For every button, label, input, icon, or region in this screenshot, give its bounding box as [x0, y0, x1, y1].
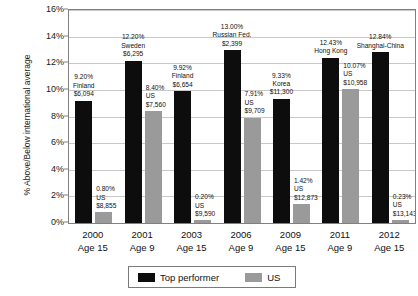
bar-us [293, 204, 310, 223]
bar-us [145, 111, 162, 223]
legend-label-top-performer: Top performer [160, 272, 219, 283]
y-tick-label: 6% [20, 137, 64, 147]
annotation-line: $7,560 [146, 101, 166, 109]
legend-item-top-performer: Top performer [138, 272, 219, 283]
bar-top-performer [174, 91, 191, 223]
annotation-line: 9.92% [145, 64, 221, 72]
y-tick-label: 10% [20, 84, 64, 94]
bar-annotation-top-performer: 12.20%Sweden$6,295 [95, 33, 171, 58]
bar-annotation-top-performer: 9.92%Finland$6,654 [145, 64, 221, 89]
bar-top-performer [273, 99, 290, 223]
annotation-line: 9.33% [243, 72, 319, 80]
y-tick-label: 0% [20, 217, 64, 227]
bar-top-performer [372, 52, 389, 223]
bar-us [342, 89, 359, 223]
bar-annotation-us: 0.23%US$13,143 [393, 193, 416, 218]
annotation-line: $9,590 [195, 210, 215, 218]
annotation-line: $6,654 [145, 81, 221, 89]
plot-area: 9.20%Finland$6,0940.80%US$8,85512.20%Swe… [68, 9, 416, 224]
y-tick-label: 4% [20, 164, 64, 174]
annotation-line: US [96, 194, 116, 202]
y-tick-mark [64, 195, 68, 196]
y-tick-mark [64, 115, 68, 116]
annotation-line: 13.00% [194, 23, 270, 31]
y-tick-mark [64, 62, 68, 63]
annotation-line: $8,855 [96, 202, 116, 210]
annotation-line: 0.80% [96, 185, 116, 193]
x-category-age: Age 15 [359, 241, 418, 254]
annotation-line: 12.20% [95, 33, 171, 41]
bar-top-performer [125, 61, 142, 223]
annotation-line: Korea [243, 80, 319, 88]
y-tick-mark [64, 222, 68, 223]
x-axis-labels: 2000Age 152001Age 92003Age 152006Age 920… [68, 226, 416, 260]
y-tick-label: 12% [20, 57, 64, 67]
annotation-line: 0.23% [393, 193, 416, 201]
annotation-line: US [343, 70, 367, 78]
x-category-year: 2012 [359, 228, 418, 241]
annotation-line: $10,958 [343, 79, 367, 87]
annotation-line: Russian Fed. [194, 31, 270, 39]
bar-us [194, 220, 211, 223]
annotation-line: Sweden [95, 42, 171, 50]
bar-top-performer [224, 50, 241, 223]
legend-swatch-top-performer [138, 273, 155, 282]
annotation-line: $2,399 [194, 40, 270, 48]
legend-item-us: US [245, 272, 280, 283]
annotation-line: $6,094 [68, 90, 122, 98]
annotation-line: US [245, 99, 265, 107]
annotation-line: Finland [68, 82, 122, 90]
annotation-line: Shanghai-China [342, 42, 416, 50]
bar-us [392, 220, 409, 223]
legend-label-us: US [267, 272, 280, 283]
gridline [69, 170, 415, 171]
annotation-line: 9.20% [68, 73, 122, 81]
y-tick-mark [64, 35, 68, 36]
gridline [69, 196, 415, 197]
annotation-line: $13,143 [393, 210, 416, 218]
y-tick-mark [64, 9, 68, 10]
bar-annotation-us: 0.80%US$8,855 [96, 185, 116, 210]
annotation-line: 0.20% [195, 193, 215, 201]
gridline [69, 143, 415, 144]
chart-container: % Above/Below international average 9.20… [0, 0, 418, 296]
bar-annotation-top-performer: 9.20%Finland$6,094 [68, 73, 122, 98]
bar-annotation-us: 1.42%US$12,873 [294, 177, 318, 202]
gridline [69, 10, 415, 11]
y-tick-label: 14% [20, 31, 64, 41]
y-tick-mark [64, 142, 68, 143]
chart-legend: Top performer US [128, 266, 296, 288]
annotation-line: $12,873 [294, 194, 318, 202]
bar-top-performer [322, 58, 339, 223]
bar-annotation-top-performer: 12.84%Shanghai-China [342, 33, 416, 50]
bar-annotation-top-performer: 9.33%Korea$11,300 [243, 72, 319, 97]
annotation-line: US [195, 202, 215, 210]
y-tick-label: 2% [20, 190, 64, 200]
y-tick-label: 16% [20, 4, 64, 14]
annotation-line: $11,300 [243, 88, 319, 96]
annotation-line: 1.42% [294, 177, 318, 185]
annotation-line: Finland [145, 72, 221, 80]
legend-swatch-us [245, 273, 262, 282]
bar-top-performer [75, 101, 92, 223]
annotation-line: $6,295 [95, 50, 171, 58]
bar-annotation-us: 0.20%US$9,590 [195, 193, 215, 218]
annotation-line: US [294, 185, 318, 193]
annotation-line: 10.07% [343, 62, 367, 70]
y-tick-mark [64, 168, 68, 169]
x-axis-category-2012: 2012Age 15 [359, 228, 418, 254]
bar-us [95, 212, 112, 223]
annotation-line: US [393, 201, 416, 209]
bar-annotation-top-performer: 13.00%Russian Fed.$2,399 [194, 23, 270, 48]
bar-us [244, 118, 261, 223]
annotation-line: $9,709 [245, 107, 265, 115]
y-tick-label: 8% [20, 111, 64, 121]
y-tick-mark [64, 88, 68, 89]
annotation-line: US [146, 92, 166, 100]
annotation-line: 12.84% [342, 33, 416, 41]
bar-annotation-us: 10.07%US$10,958 [343, 62, 367, 87]
gridline [69, 117, 415, 118]
